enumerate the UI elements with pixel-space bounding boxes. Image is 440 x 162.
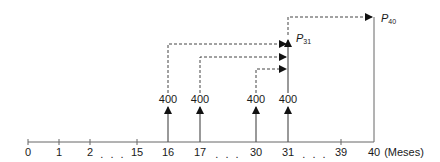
ellipsis-2-15: . . . — [100, 149, 125, 160]
tick-label-0: 0 — [25, 147, 31, 158]
tick-label-40: 40 — [368, 147, 380, 158]
ellipsis-17-30: . . . — [215, 149, 240, 160]
deposit-amount-30: 400 — [247, 94, 265, 105]
tick-label-15: 15 — [131, 147, 143, 158]
deposit-arrows — [168, 107, 288, 142]
dashed-path-17 — [200, 57, 286, 93]
label-p40: P40 — [381, 13, 396, 25]
accumulation-paths — [168, 17, 372, 93]
tick-label-16: 16 — [162, 147, 174, 158]
p31-subscript: 31 — [303, 38, 311, 45]
p40-subscript: 40 — [388, 18, 396, 25]
diagram-graphics — [0, 0, 440, 162]
label-p31: P31 — [296, 33, 311, 45]
tick-label-39: 39 — [335, 147, 347, 158]
ellipsis-31-39: . . . — [302, 149, 327, 160]
deposit-amount-31: 400 — [279, 94, 297, 105]
tick-label-17: 17 — [194, 147, 206, 158]
deposit-amount-17: 400 — [191, 94, 209, 105]
dashed-path-30 — [256, 69, 286, 93]
tick-label-2: 2 — [87, 147, 93, 158]
cash-flow-diagram: 0 1 2 15 16 17 30 31 39 40 (Meses) . . .… — [0, 0, 440, 162]
tick-label-30: 30 — [250, 147, 262, 158]
tick-label-31: 31 — [282, 147, 294, 158]
axis-unit-label: (Meses) — [384, 147, 424, 158]
tick-label-1: 1 — [56, 147, 62, 158]
deposit-amount-16: 400 — [159, 94, 177, 105]
